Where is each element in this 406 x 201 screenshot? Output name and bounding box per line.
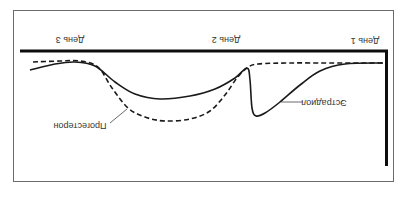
progesterone-leader-line (110, 109, 127, 123)
estradiol-label: Эстрадиол (301, 98, 346, 108)
day-1-label: День 1 (351, 36, 379, 46)
hormone-chart: День 3 День 2 День 1 Прогестерон Эстради… (0, 0, 406, 201)
progesterone-label: Прогестерон (53, 121, 106, 131)
day-3-label: День 3 (56, 35, 84, 45)
day-2-label: День 2 (212, 35, 240, 45)
